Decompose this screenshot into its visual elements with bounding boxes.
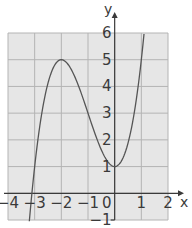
- y-tick-label: 3: [102, 104, 112, 122]
- x-axis-label: x: [180, 194, 188, 210]
- y-tick-label: −1: [90, 211, 112, 228]
- function-graph: −4−3−2−112−1123456 x y 0: [0, 0, 192, 228]
- y-tick-label: 1: [102, 158, 112, 176]
- x-tick-label: 2: [163, 194, 173, 212]
- x-tick-label: −2: [50, 194, 72, 212]
- y-axis-label: y: [104, 1, 112, 17]
- y-tick-label: 5: [102, 51, 112, 69]
- y-tick-label: 6: [102, 24, 112, 42]
- x-tick-label: −1: [77, 194, 99, 212]
- y-tick-label: 4: [102, 77, 112, 95]
- x-tick-label: −3: [24, 194, 46, 212]
- x-tick-label: 1: [137, 194, 147, 212]
- y-tick-label: 2: [102, 131, 112, 149]
- origin-label: 0: [102, 194, 112, 212]
- x-tick-label: −4: [0, 194, 19, 212]
